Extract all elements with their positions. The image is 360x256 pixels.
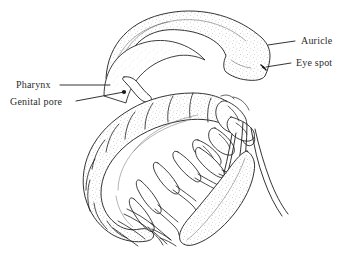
label-pharynx: Pharynx — [16, 79, 51, 90]
label-auricle: Auricle — [301, 35, 332, 46]
label-genital-pore: Genital pore — [10, 96, 62, 107]
label-eye-spot: Eye spot — [296, 57, 332, 68]
figure-page: Auricle Eye spot Pharynx Genital pore — [0, 0, 360, 256]
genital-pore-dot — [122, 90, 126, 94]
